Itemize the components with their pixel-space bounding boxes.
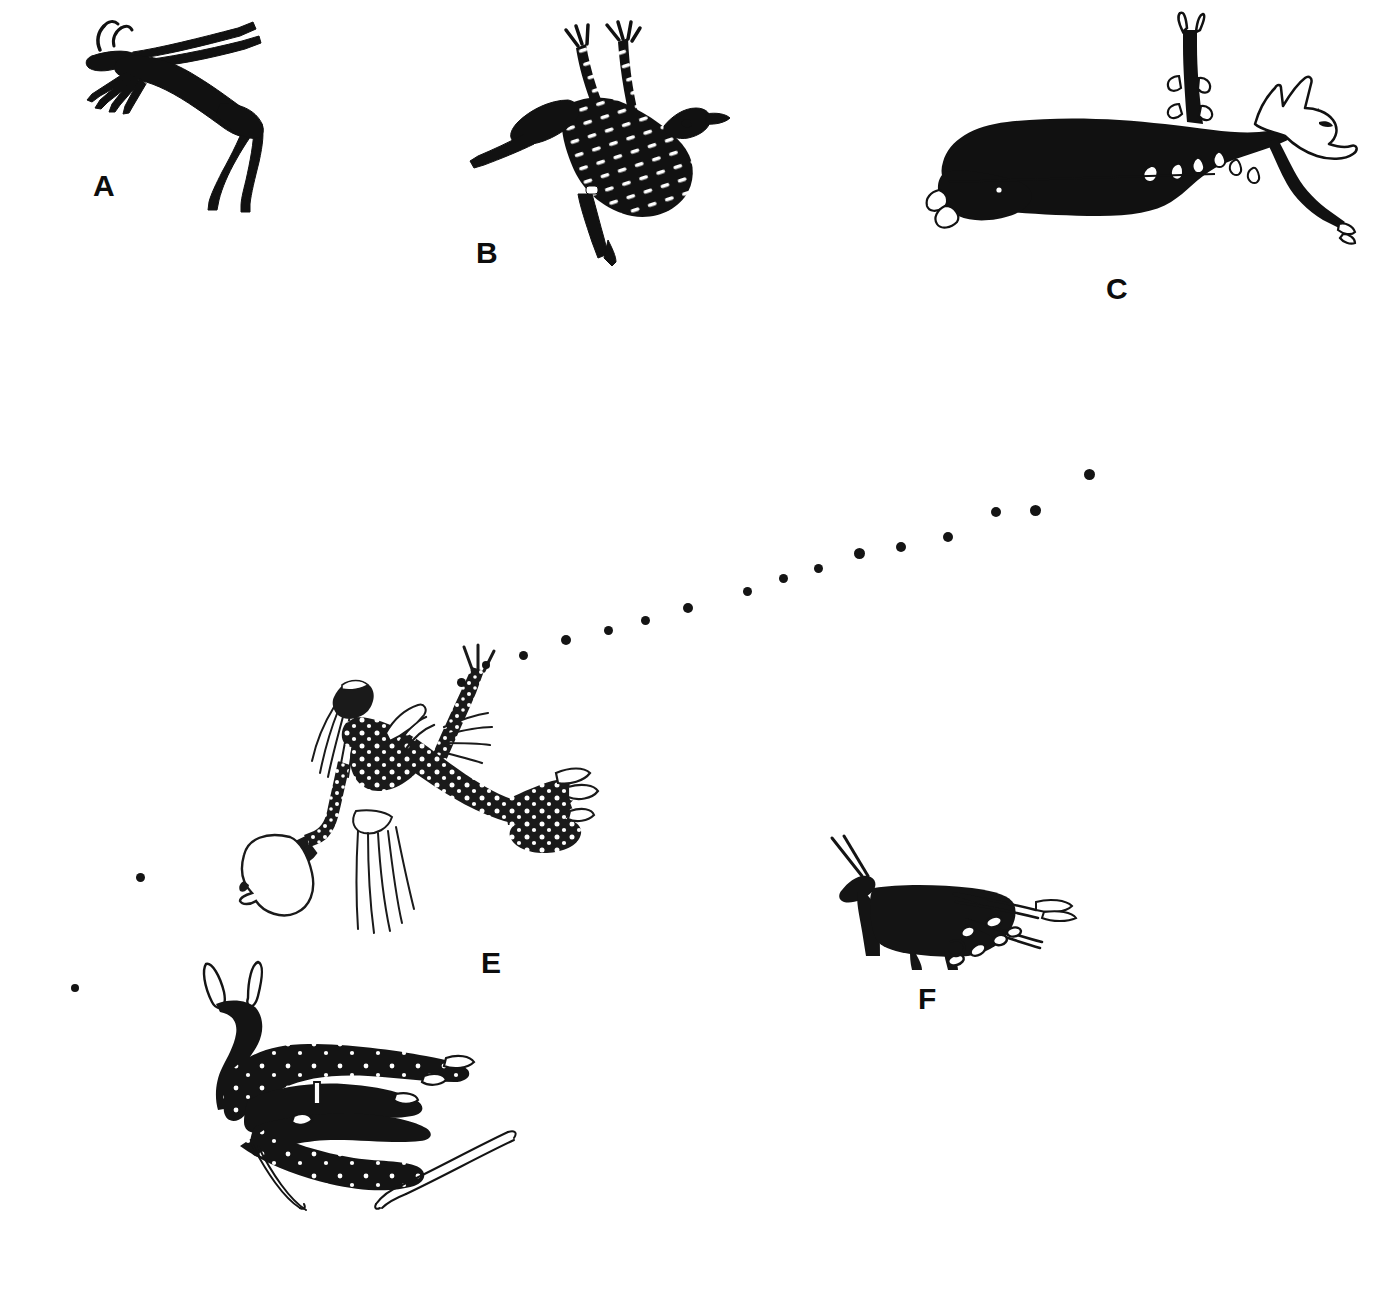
trajectory-dot	[991, 507, 1001, 517]
figure-d-eland	[178, 950, 568, 1215]
trajectory-dot	[1084, 469, 1095, 480]
trajectory-dot	[896, 542, 906, 552]
trajectory-dot	[604, 626, 613, 635]
figure-e-human	[238, 625, 618, 955]
trajectory-dot	[1030, 505, 1041, 516]
figure-b-ostrich	[468, 8, 738, 268]
trajectory-dot	[854, 548, 865, 559]
figure-plate: ABCEF	[0, 0, 1395, 1308]
trajectory-dot	[814, 564, 823, 573]
figure-label-e: E	[481, 948, 502, 978]
trajectory-dot	[683, 603, 693, 613]
figure-label-a: A	[93, 171, 115, 201]
trajectory-dot	[71, 984, 79, 992]
trajectory-dot	[482, 661, 490, 669]
trajectory-dot	[641, 616, 650, 625]
trajectory-dot	[943, 532, 953, 542]
trajectory-dot	[457, 678, 466, 687]
figure-label-f: F	[918, 984, 937, 1014]
figure-c-canid	[915, 12, 1375, 277]
trajectory-dot	[136, 873, 145, 882]
trajectory-dot	[519, 651, 528, 660]
trajectory-dot	[561, 635, 571, 645]
trajectory-dot	[743, 587, 752, 596]
figure-f-antelope	[818, 832, 1098, 977]
figure-label-c: C	[1106, 274, 1128, 304]
trajectory-dot	[779, 574, 788, 583]
figure-label-b: B	[476, 238, 498, 268]
